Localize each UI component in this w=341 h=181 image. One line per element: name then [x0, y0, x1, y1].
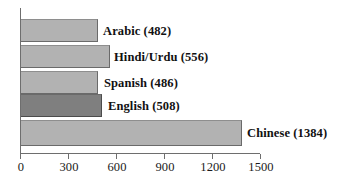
x-axis-tick-label: 1200	[200, 160, 225, 175]
bar-label-english: English (508)	[108, 99, 180, 114]
plot-area: 0 300 600 900 1200 1500 Arabic (482) Hin…	[0, 0, 341, 181]
x-axis-tick-label: 0	[18, 160, 24, 175]
bar-arabic	[21, 19, 98, 42]
x-axis-tick-label: 300	[59, 160, 78, 175]
x-axis-tick-label: 600	[107, 160, 126, 175]
x-axis-tick	[20, 154, 21, 159]
x-axis-tick	[164, 154, 165, 159]
bar-english	[21, 94, 102, 117]
bar-label-hindi-urdu: Hindi/Urdu (556)	[114, 50, 208, 65]
bar-spanish	[21, 71, 98, 94]
x-axis-tick	[212, 154, 213, 159]
x-axis-tick-label: 900	[155, 160, 174, 175]
bar-chinese	[21, 120, 242, 146]
bar-label-chinese: Chinese (1384)	[247, 126, 327, 141]
bar-hindi-urdu	[21, 45, 110, 68]
bar-label-spanish: Spanish (486)	[104, 76, 178, 91]
bar-chart: 0 300 600 900 1200 1500 Arabic (482) Hin…	[0, 0, 341, 181]
x-axis-tick-label: 1500	[248, 160, 273, 175]
x-axis-tick	[260, 154, 261, 159]
x-axis-line	[20, 153, 260, 154]
x-axis-tick	[116, 154, 117, 159]
x-axis-tick	[68, 154, 69, 159]
bar-label-arabic: Arabic (482)	[103, 24, 171, 39]
